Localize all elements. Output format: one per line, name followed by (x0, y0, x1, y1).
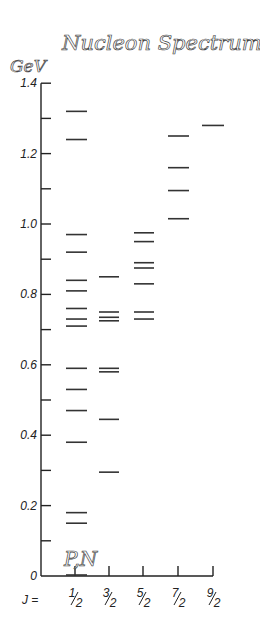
y-tick-label: 0.4 (20, 428, 37, 442)
y-tick-label: 1.2 (20, 147, 37, 161)
energy-levels (66, 111, 224, 575)
y-tick-label: 1.4 (20, 76, 37, 90)
j-label-denominator: 2 (109, 596, 117, 610)
y-axis: 00.20.40.60.81.01.21.4 (20, 76, 51, 583)
y-tick-label: 0.6 (20, 358, 37, 372)
nucleon-spectrum-chart: Nucleon Spectrum GeV 00.20.40.60.81.01.2… (0, 0, 260, 629)
proton-neutron-label: P,N (63, 547, 99, 571)
y-tick-label: 0.2 (20, 499, 37, 513)
j-label-denominator: 2 (143, 596, 151, 610)
x-axis-label: J = (21, 593, 38, 607)
y-tick-label: 1.0 (20, 217, 37, 231)
y-tick-label: 0 (30, 569, 37, 583)
y-axis-unit-label: GeV (10, 56, 48, 76)
chart-title: Nucleon Spectrum (61, 31, 260, 55)
j-label-denominator: 2 (213, 596, 221, 610)
j-label-denominator: 2 (178, 596, 186, 610)
y-tick-label: 0.8 (20, 287, 37, 301)
j-label-denominator: 2 (75, 596, 83, 610)
x-axis: J =1232527292 (21, 566, 221, 610)
